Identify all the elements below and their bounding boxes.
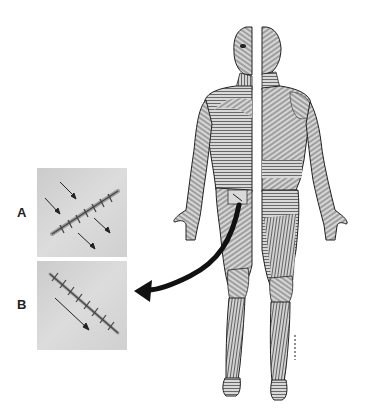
panel-b — [37, 261, 127, 350]
panel-b-label: B — [17, 297, 26, 312]
body-illustration — [0, 0, 381, 420]
anterior-half-figure — [174, 27, 252, 396]
panel-a — [37, 168, 127, 257]
panel-a-label: A — [17, 205, 26, 220]
posterior-half-figure — [262, 27, 347, 400]
